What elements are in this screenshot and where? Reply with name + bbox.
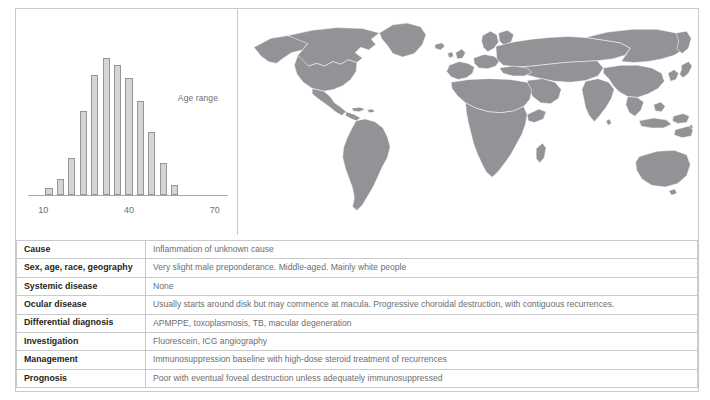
- table-row: Sex, age, race, geographyVery slight mal…: [17, 259, 698, 277]
- histogram-bar: [103, 58, 110, 195]
- x-axis-tick-label: 40: [124, 205, 134, 215]
- table-row-label: Systemic disease: [17, 277, 146, 295]
- world-map-svg: [245, 15, 693, 231]
- histogram-bar: [148, 132, 155, 195]
- table-row-label: Investigation: [17, 332, 146, 350]
- table-row: PrognosisPoor with eventual foveal destr…: [17, 369, 698, 387]
- table-row-label: Differential diagnosis: [17, 314, 146, 332]
- table-row-value: Very slight male preponderance. Middle-a…: [146, 259, 698, 277]
- histogram-bar: [57, 179, 64, 195]
- histogram-bar: [125, 78, 132, 195]
- clinical-summary-table-wrap: CauseInflammation of unknown causeSex, a…: [16, 240, 698, 388]
- table-row: Ocular diseaseUsually starts around disk…: [17, 296, 698, 314]
- x-axis-line: [28, 195, 228, 196]
- histogram-plot-area: Age range 104070: [26, 21, 232, 221]
- figure-root: Age range 104070: [0, 0, 710, 400]
- table-row-value: Usually starts around disk but may comme…: [146, 296, 698, 314]
- map-landmasses: [254, 23, 693, 210]
- age-range-histogram-panel: Age range 104070: [16, 9, 238, 235]
- table-row-label: Sex, age, race, geography: [17, 259, 146, 277]
- table-row: InvestigationFluorescein, ICG angiograph…: [17, 332, 698, 350]
- table-row-value: Fluorescein, ICG angiography: [146, 332, 698, 350]
- x-axis-tick-label: 70: [210, 205, 220, 215]
- table-row-label: Management: [17, 351, 146, 369]
- table-row-value: Immunosuppression baseline with high-dos…: [146, 351, 698, 369]
- table-row-value: Poor with eventual foveal destruction un…: [146, 369, 698, 387]
- world-map-panel: [239, 9, 698, 235]
- histogram-bar: [137, 101, 144, 195]
- table-row-label: Cause: [17, 241, 146, 259]
- histogram-bar: [68, 158, 75, 195]
- clinical-summary-table: CauseInflammation of unknown causeSex, a…: [16, 240, 698, 388]
- histogram-bars: [26, 51, 232, 195]
- table-row: CauseInflammation of unknown cause: [17, 241, 698, 259]
- table-row-value: None: [146, 277, 698, 295]
- histogram-bar: [80, 111, 87, 195]
- table-row-value: Inflammation of unknown cause: [146, 241, 698, 259]
- table-row-value: APMPPE, toxoplasmosis, TB, macular degen…: [146, 314, 698, 332]
- table-body: CauseInflammation of unknown causeSex, a…: [17, 241, 698, 388]
- table-row: Systemic diseaseNone: [17, 277, 698, 295]
- top-panels: Age range 104070: [16, 9, 698, 237]
- table-row: Differential diagnosisAPMPPE, toxoplasmo…: [17, 314, 698, 332]
- table-row-label: Ocular disease: [17, 296, 146, 314]
- table-row: ManagementImmunosuppression baseline wit…: [17, 351, 698, 369]
- histogram-bar: [114, 65, 121, 195]
- x-axis-tick-label: 10: [38, 205, 48, 215]
- histogram-bar: [160, 163, 167, 195]
- histogram-bar: [171, 185, 178, 195]
- histogram-bar: [45, 188, 52, 195]
- histogram-bar: [91, 75, 98, 195]
- table-row-label: Prognosis: [17, 369, 146, 387]
